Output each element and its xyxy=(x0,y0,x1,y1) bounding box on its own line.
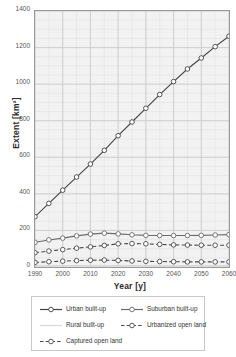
series-marker-4 xyxy=(185,260,190,265)
series-marker-1 xyxy=(199,233,204,238)
series-marker-1 xyxy=(171,233,176,238)
series-marker-4 xyxy=(213,260,218,265)
series-marker-0 xyxy=(47,201,52,206)
series-marker-3 xyxy=(74,246,79,251)
legend-label: Suburban built-up xyxy=(147,306,197,312)
series-marker-0 xyxy=(213,44,218,49)
x-tick-label: 2040 xyxy=(159,271,189,278)
series-marker-4 xyxy=(144,259,149,264)
series-marker-4 xyxy=(102,258,107,263)
series-marker-3 xyxy=(47,249,52,254)
series-marker-1 xyxy=(60,236,65,241)
series-marker-3 xyxy=(116,241,121,246)
series-marker-4 xyxy=(47,259,52,264)
legend-item-4[interactable]: Captured open land xyxy=(35,333,118,349)
series-marker-0 xyxy=(185,67,190,72)
legend-label: Rural built-up xyxy=(66,322,104,328)
series-marker-0 xyxy=(227,34,229,39)
series-marker-4 xyxy=(130,259,135,264)
series-marker-0 xyxy=(102,148,107,153)
series-marker-0 xyxy=(74,175,79,180)
legend-marker xyxy=(130,307,135,312)
y-tick-label: 1400 xyxy=(4,6,30,13)
series-marker-3 xyxy=(227,243,229,248)
x-tick-label: 2060 xyxy=(214,271,236,278)
y-axis-tick-labels: 0200400600800100012001400 xyxy=(0,0,30,357)
x-tick-label: 2020 xyxy=(103,271,133,278)
series-marker-1 xyxy=(102,231,107,236)
series-marker-3 xyxy=(88,245,93,250)
series-marker-1 xyxy=(144,233,149,238)
series-marker-3 xyxy=(171,243,176,248)
legend-label: Urbanized open land xyxy=(147,322,206,328)
legend-marker xyxy=(130,323,135,328)
series-marker-3 xyxy=(60,247,65,252)
legend-label: Urban built-up xyxy=(66,306,106,312)
legend-item-0[interactable]: Urban built-up xyxy=(35,301,118,317)
legend-key xyxy=(39,321,63,330)
y-tick-label: 600 xyxy=(4,152,30,159)
series-marker-1 xyxy=(74,234,79,239)
legend-key xyxy=(39,337,63,346)
series-marker-3 xyxy=(35,250,37,255)
series-marker-1 xyxy=(227,232,229,237)
series-marker-4 xyxy=(35,260,37,265)
series-marker-1 xyxy=(35,240,37,245)
series-marker-1 xyxy=(47,238,52,243)
series-marker-4 xyxy=(199,260,204,265)
series-marker-1 xyxy=(130,233,135,238)
series-marker-0 xyxy=(60,188,65,193)
plot-area xyxy=(34,10,230,268)
series-marker-4 xyxy=(74,258,79,263)
series-marker-0 xyxy=(130,120,135,125)
y-tick-label: 800 xyxy=(4,116,30,123)
series-marker-3 xyxy=(157,242,162,247)
series-marker-0 xyxy=(199,56,204,61)
series-marker-1 xyxy=(157,233,162,238)
legend-row: Rural built-upUrbanized open land xyxy=(35,317,201,333)
x-tick-label: 2030 xyxy=(131,271,161,278)
series-marker-4 xyxy=(60,259,65,264)
series-marker-0 xyxy=(116,133,121,138)
series-marker-1 xyxy=(116,232,121,237)
legend-key xyxy=(39,305,63,314)
legend-item-1[interactable]: Suburban built-up xyxy=(118,301,201,317)
y-tick-label: 1200 xyxy=(4,43,30,50)
legend-key xyxy=(120,305,144,314)
x-tick-label: 1990 xyxy=(20,271,50,278)
legend-item-3[interactable]: Urbanized open land xyxy=(118,317,201,333)
series-marker-0 xyxy=(157,92,162,97)
series-marker-4 xyxy=(171,259,176,264)
x-tick-label: 2000 xyxy=(48,271,78,278)
x-axis-title: Year [y] xyxy=(30,281,230,291)
x-tick-label: 2050 xyxy=(186,271,216,278)
y-tick-label: 0 xyxy=(4,262,30,269)
series-marker-3 xyxy=(102,243,107,248)
y-tick-label: 200 xyxy=(4,225,30,232)
legend-marker xyxy=(49,339,54,344)
legend-item-2[interactable]: Rural built-up xyxy=(35,317,118,333)
series-marker-3 xyxy=(199,243,204,248)
y-tick-label: 1000 xyxy=(4,79,30,86)
series-marker-4 xyxy=(157,259,162,264)
legend-row: Urban built-upSuburban built-up xyxy=(35,301,201,317)
chart-figure: Extent [km²] 0200400600800100012001400 1… xyxy=(0,0,236,357)
series-marker-1 xyxy=(213,233,218,238)
plot-canvas xyxy=(35,11,229,267)
series-marker-0 xyxy=(35,214,37,219)
series-marker-3 xyxy=(185,243,190,248)
series-marker-0 xyxy=(171,79,176,84)
series-marker-0 xyxy=(88,162,93,167)
series-marker-4 xyxy=(116,258,121,263)
series-marker-4 xyxy=(88,258,93,263)
legend-label: Captured open land xyxy=(66,338,122,344)
x-tick-label: 2010 xyxy=(75,271,105,278)
chart-legend: Urban built-upSuburban built-upRural bui… xyxy=(31,296,205,351)
series-marker-0 xyxy=(144,106,149,111)
series-marker-3 xyxy=(130,241,135,246)
series-marker-4 xyxy=(227,260,229,265)
series-marker-3 xyxy=(213,243,218,248)
series-marker-1 xyxy=(185,233,190,238)
legend-marker xyxy=(49,307,54,312)
series-marker-1 xyxy=(88,232,93,237)
